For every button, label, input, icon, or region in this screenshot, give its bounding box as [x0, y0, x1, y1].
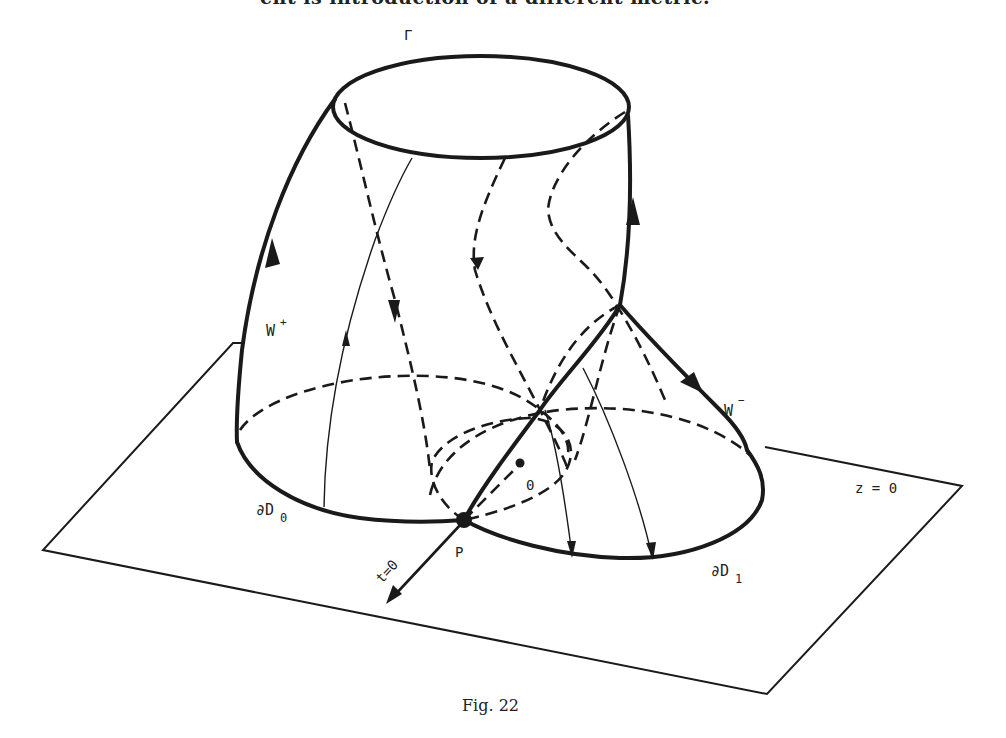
point-O [516, 459, 525, 468]
flow-line-thin-2 [545, 410, 572, 555]
plane-z0 [43, 343, 962, 694]
label-w-minus-sup: − [738, 394, 745, 407]
d1-back-dashed [430, 408, 750, 495]
arrow-up-icon [342, 330, 350, 346]
label-P: P [455, 544, 463, 560]
label-dD0-sub: 0 [280, 511, 287, 525]
label-w-minus: W [724, 402, 734, 420]
label-w-plus-sup: + [280, 316, 287, 329]
flow-line-dashed-4 [575, 305, 620, 460]
figure-page: ent is introduction of a different metri… [0, 0, 1006, 738]
w-plus-left-edge [237, 99, 335, 442]
top-ellipse-gamma [333, 56, 629, 158]
label-t0: t=0 [372, 557, 401, 587]
d0-back-dashed [240, 376, 568, 455]
flow-line-dashed-1 [345, 103, 430, 470]
label-gamma: Γ [404, 27, 412, 43]
axis-t0 [393, 523, 462, 597]
boundary-dD1 [464, 450, 763, 558]
label-w-plus: W [266, 322, 276, 340]
inner-disk-dashed [431, 418, 571, 520]
label-dD0: ∂D [256, 501, 274, 519]
label-z0: z = 0 [855, 480, 897, 496]
arrow-down-left-icon [386, 585, 402, 604]
label-dD1-sub: 1 [735, 572, 742, 586]
label-O: 0 [526, 477, 534, 493]
figure-caption: Fig. 22 [462, 696, 519, 715]
cylinder-right-edge [620, 115, 630, 305]
w-minus-edge [620, 305, 747, 450]
figure-22-diagram: Γ W + W − ∂D 0 ∂D 1 P 0 z = 0 t=0 Fig. 2… [0, 0, 1006, 738]
flow-line-thin-1 [324, 158, 412, 507]
arrow-down-icon [470, 257, 484, 270]
label-dD1: ∂D [711, 562, 729, 580]
